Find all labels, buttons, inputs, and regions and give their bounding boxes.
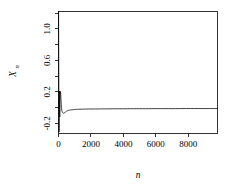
y-axis-tick-label: 1.0 <box>42 23 52 35</box>
x-axis-title: n <box>136 170 141 180</box>
y-axis-title-subscript: n <box>13 65 20 68</box>
y-axis-tick-label: 0.2 <box>42 86 52 97</box>
x-axis-tick-label: 8000 <box>179 139 198 149</box>
x-axis-tick-label: 2000 <box>82 139 101 149</box>
x-axis-tick-label: 4000 <box>114 139 133 149</box>
y-axis-ticks <box>55 13 59 123</box>
x-axis-tick-label: 6000 <box>147 139 166 149</box>
y-axis-title-text: X <box>8 70 18 78</box>
y-axis-tick-labels: -0.20.20.61.0 <box>42 23 52 131</box>
y-axis-title: X n <box>8 65 20 78</box>
data-series-line <box>59 12 218 132</box>
y-axis-tick-label: 0.6 <box>42 54 52 66</box>
chart-figure: -0.20.20.61.0 02000400060008000 X n n <box>0 0 232 187</box>
plot-frame <box>59 12 218 134</box>
x-axis-tick-labels: 02000400060008000 <box>56 139 198 149</box>
y-axis-tick-label: -0.2 <box>42 116 52 130</box>
x-axis-ticks <box>59 134 189 138</box>
chart-canvas: -0.20.20.61.0 02000400060008000 X n n <box>0 0 232 187</box>
x-axis-tick-label: 0 <box>56 139 61 149</box>
